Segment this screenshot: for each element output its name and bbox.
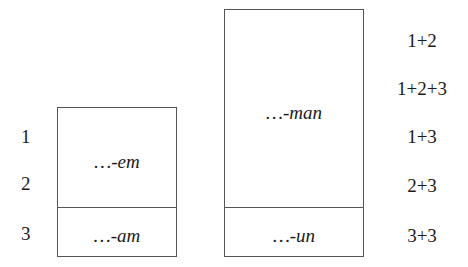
- row-label-1: 1: [21, 127, 31, 146]
- right-lower-suffix: …-un: [273, 226, 315, 245]
- left-upper-suffix: …-em: [94, 152, 139, 171]
- right-upper-suffix: …-man: [266, 103, 322, 122]
- row-label-1-2: 1+2: [407, 31, 437, 50]
- row-label-3: 3: [21, 224, 31, 243]
- left-lower-suffix: …-am: [94, 226, 140, 245]
- row-label-3-3: 3+3: [407, 226, 437, 245]
- row-label-1-3: 1+3: [407, 127, 437, 146]
- row-label-1-2-3: 1+2+3: [397, 79, 447, 98]
- row-label-2: 2: [21, 174, 31, 193]
- row-label-2-3: 2+3: [407, 176, 437, 195]
- right-paradigm-box: [224, 9, 364, 257]
- left-box-divider: [58, 207, 176, 208]
- right-box-divider: [225, 207, 363, 208]
